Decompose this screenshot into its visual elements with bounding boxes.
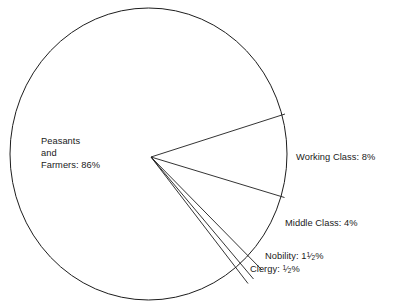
slice-label-working-class: Working Class: 8%	[296, 151, 375, 163]
wedge-boundary-clergy-peasants	[151, 157, 248, 284]
slice-label-clergy-suffix: %	[291, 264, 299, 274]
slice-label-clergy-prefix: Clergy:	[250, 264, 282, 274]
wedge-boundary-nobility-clergy	[151, 157, 254, 279]
pie-chart: Peasants and Farmers: 86% Working Class:…	[0, 0, 397, 307]
fraction-denominator: 2	[312, 254, 316, 261]
fraction-denominator: 2	[288, 267, 292, 274]
wedge-boundary-peasants-working	[151, 114, 285, 157]
slice-label-middle-class: Middle Class: 4%	[285, 217, 358, 229]
slice-label-nobility-fraction: 1⁄2	[306, 250, 315, 262]
slice-label-clergy-fraction: 1⁄2	[282, 263, 291, 275]
slice-label-nobility-suffix: %	[315, 251, 323, 261]
slice-label-peasants-line1: Peasants	[41, 135, 100, 147]
slice-label-peasants-line2: and	[41, 147, 100, 159]
slice-label-peasants-line3: Farmers: 86%	[41, 159, 100, 171]
slice-label-peasants: Peasants and Farmers: 86%	[41, 135, 100, 172]
slice-label-nobility-prefix: Nobility:	[265, 251, 301, 261]
slice-label-clergy: Clergy: 1⁄2%	[250, 263, 300, 275]
slice-label-nobility: Nobility: 11⁄2%	[265, 250, 324, 262]
